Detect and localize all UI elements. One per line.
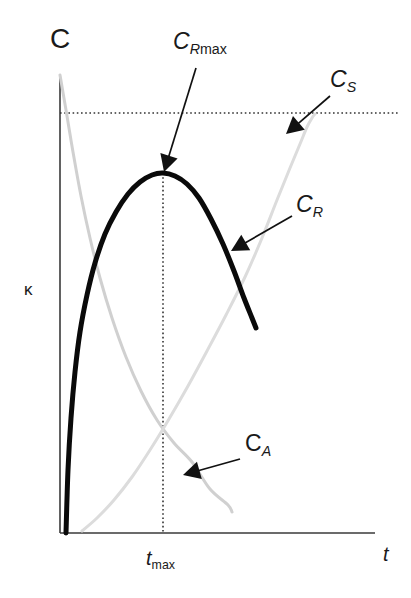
annotation-label-c-a: CA	[245, 432, 271, 455]
c-s-main: C	[330, 66, 347, 92]
t-max-subscript: max	[152, 558, 175, 572]
t-max-symbol: t	[146, 547, 152, 569]
c-r-max-main: C	[173, 28, 190, 54]
annotation-label-c-r: CR	[296, 193, 323, 216]
y-axis-side-label-kappa: κ	[24, 281, 33, 298]
c-a-sub-italic: A	[262, 443, 272, 459]
arrowhead-cr	[231, 235, 250, 251]
c-a-main: C	[245, 430, 262, 456]
annotation-label-c-s: CS	[330, 68, 356, 91]
annotation-label-c-r-max: CRmax	[173, 30, 227, 53]
c-r-max-sub-italic: R	[190, 41, 200, 57]
figure-canvas: C κ t tmax CRmax CS CR CA	[0, 0, 411, 598]
x-axis-label: t	[383, 544, 389, 564]
curve-c-r	[66, 173, 256, 533]
arrowhead-crmax	[160, 153, 177, 172]
c-r-sub-italic: R	[313, 204, 323, 220]
c-s-sub-italic: S	[347, 79, 357, 95]
c-r-max-sub-roman: max	[200, 41, 227, 57]
c-r-main: C	[296, 191, 313, 217]
annotation-leader-line-cs	[298, 96, 330, 124]
annotation-leader-line-ca	[198, 459, 240, 471]
t-max-tick-label: tmax	[146, 548, 175, 568]
y-axis-top-label: C	[50, 25, 70, 53]
arrowhead-cs	[286, 116, 305, 134]
annotation-leader-line-crmax	[169, 68, 196, 157]
